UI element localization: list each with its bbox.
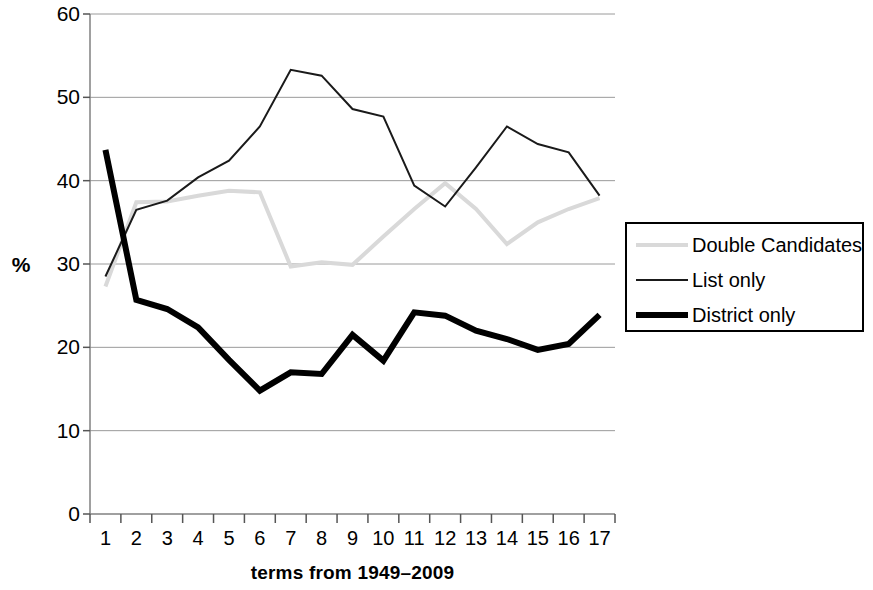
line-chart: % 0102030405060 123456789101112131415161…	[0, 0, 873, 590]
legend-label: Double Candidates	[692, 234, 862, 256]
series-line	[105, 70, 599, 277]
legend-swatch-double	[636, 239, 688, 251]
legend-item[interactable]: List only	[627, 262, 862, 298]
legend-swatch-district	[636, 309, 688, 321]
chart-legend: Double CandidatesList onlyDistrict only	[625, 222, 864, 332]
series-line	[105, 150, 599, 391]
legend-swatch-list	[636, 274, 688, 286]
series-line	[105, 183, 599, 286]
legend-item[interactable]: District only	[627, 297, 862, 333]
legend-label: List only	[692, 269, 765, 291]
legend-label: District only	[692, 304, 795, 326]
x-axis-title: terms from 1949–2009	[90, 562, 615, 584]
legend-item[interactable]: Double Candidates	[627, 227, 862, 263]
